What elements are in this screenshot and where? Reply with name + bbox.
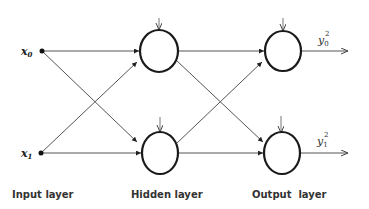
input-node-x1	[39, 151, 44, 156]
hidden-output-edges	[176, 51, 264, 153]
network-diagram: x0 x1 y0 2 y1 2 Input layer Hidden layer…	[0, 0, 369, 209]
edge-h1-o0	[176, 62, 262, 144]
layer-label-output: Output layer	[252, 189, 327, 200]
input-node-x0	[40, 49, 45, 54]
edge-h0-o1	[176, 60, 263, 142]
output-node-1	[264, 132, 300, 174]
input-label-x0: x0	[20, 45, 33, 59]
input-hidden-edges	[41, 51, 141, 153]
layer-label-input: Input layer	[12, 189, 74, 200]
output-label-y0-sup: 2	[325, 30, 329, 38]
edge-x1-h0	[41, 62, 137, 153]
hidden-node-0	[140, 30, 178, 72]
output-label-y1-sup: 2	[324, 131, 328, 139]
bias-arrows	[159, 18, 283, 133]
edge-x0-h1	[42, 51, 137, 142]
hidden-node-1	[142, 132, 178, 174]
output-node-0	[265, 31, 301, 71]
input-label-x1: x1	[20, 147, 32, 161]
layer-label-hidden: Hidden layer	[131, 189, 203, 200]
